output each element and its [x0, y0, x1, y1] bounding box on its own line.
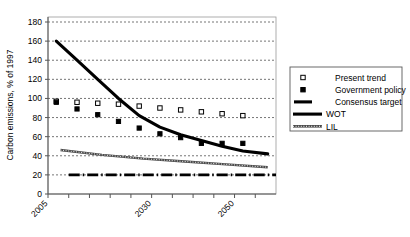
marker-present-trend	[199, 110, 203, 114]
y-axis-title: Carbon emissions, % of 1997	[5, 49, 15, 160]
legend-label-government-policy: Government policy	[335, 85, 407, 95]
legend-label-lil: LIL	[326, 122, 338, 132]
marker-government-policy	[116, 119, 120, 123]
marker-government-policy	[96, 113, 100, 117]
y-tick-label: 80	[33, 113, 43, 123]
y-tick-label: 60	[33, 132, 43, 142]
marker-government-policy	[137, 126, 141, 130]
legend-swatch-government-policy	[301, 88, 305, 92]
legend-label-consensus-target: Consensus target	[335, 97, 402, 107]
marker-present-trend	[220, 112, 224, 116]
marker-present-trend	[158, 106, 162, 110]
y-tick-label: 0	[37, 189, 42, 199]
marker-present-trend	[178, 108, 182, 112]
marker-present-trend	[75, 100, 79, 104]
marker-government-policy	[241, 141, 245, 145]
marker-present-trend	[116, 102, 120, 106]
y-tick-label: 40	[33, 151, 43, 161]
marker-present-trend	[137, 104, 141, 108]
y-tick-label: 160	[28, 36, 42, 46]
carbon-emissions-chart: 020406080100120140160180 200520302050 Ca…	[0, 0, 410, 237]
y-axis-ticks: 020406080100120140160180	[28, 17, 48, 199]
legend-label-wot: WOT	[326, 109, 346, 119]
marker-government-policy	[220, 141, 224, 145]
chart-legend: Present trendGovernment policyConsensus …	[290, 67, 407, 132]
x-tick-label: 2050	[216, 198, 237, 219]
marker-government-policy	[179, 136, 183, 140]
y-tick-label: 100	[28, 93, 42, 103]
marker-present-trend	[241, 113, 245, 117]
y-tick-label: 120	[28, 74, 42, 84]
marker-government-policy	[54, 100, 58, 104]
x-axis-tick-labels: 200520302050	[29, 198, 236, 219]
y-tick-label: 20	[33, 170, 43, 180]
legend-label-present-trend: Present trend	[335, 73, 386, 83]
marker-government-policy	[158, 132, 162, 136]
y-tick-label: 140	[28, 55, 42, 65]
x-tick-label: 2005	[29, 198, 50, 219]
marker-government-policy	[199, 141, 203, 145]
x-tick-label: 2030	[133, 198, 154, 219]
legend-swatch-present-trend	[301, 75, 305, 79]
marker-present-trend	[96, 101, 100, 105]
x-axis-ticks	[48, 194, 255, 198]
marker-government-policy	[75, 107, 79, 111]
y-tick-label: 180	[28, 17, 42, 27]
chart-container: 020406080100120140160180 200520302050 Ca…	[0, 0, 410, 237]
